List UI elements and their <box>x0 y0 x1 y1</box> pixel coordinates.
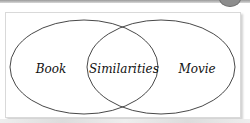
intersection-label: Similarities <box>89 62 159 76</box>
set-label-book: Book <box>36 62 67 76</box>
bottom-strip <box>0 119 250 123</box>
set-label-movie: Movie <box>178 62 215 76</box>
